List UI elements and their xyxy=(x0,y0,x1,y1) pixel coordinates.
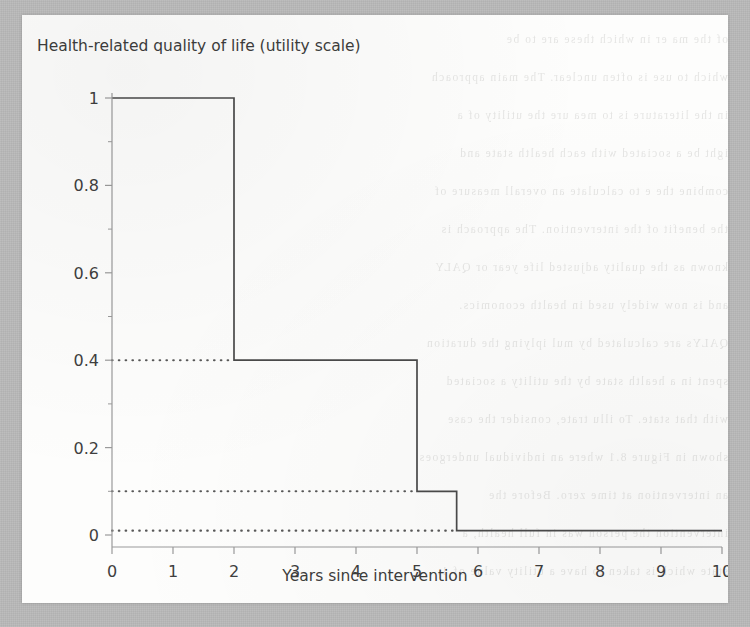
y-tick-label: 0.2 xyxy=(74,439,99,458)
page-panel: of the ma er in which these are to bewhi… xyxy=(22,15,728,603)
y-tick-label: 0 xyxy=(89,526,99,545)
x-axis-tick-group xyxy=(112,547,722,554)
y-tick-label: 0.4 xyxy=(74,351,99,370)
figure-chart: Health-related quality of life (utility … xyxy=(22,15,728,603)
y-tick-label: 1 xyxy=(89,89,99,108)
x-axis-label: Years since intervention xyxy=(22,567,728,585)
y-tick-label: 0.8 xyxy=(74,176,99,195)
y-tick-labels-group: 00.20.40.60.81 xyxy=(74,89,99,545)
y-axis-tick-group xyxy=(105,98,112,535)
y-tick-label: 0.6 xyxy=(74,264,99,283)
data-line-series xyxy=(112,98,722,531)
reference-lines-group xyxy=(112,360,457,530)
scanned-page: of the ma er in which these are to bewhi… xyxy=(0,0,750,627)
data-series-group xyxy=(112,98,722,531)
plot-canvas: 00.20.40.60.81 012345678910 xyxy=(22,15,728,603)
